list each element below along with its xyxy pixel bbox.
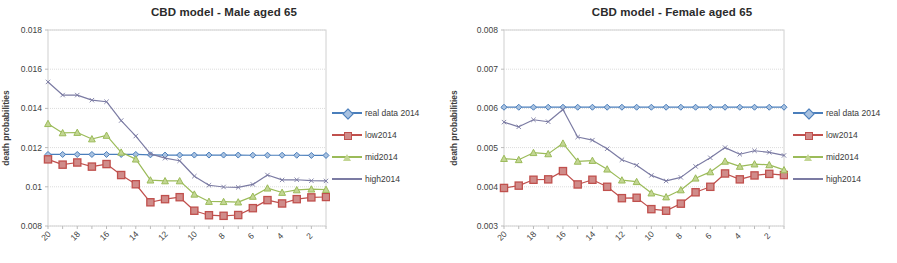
legend-swatch-triangle-icon: [332, 152, 362, 162]
y-axis-tick-label: 0.006: [477, 103, 499, 113]
legend-item-high2014[interactable]: high2014: [793, 168, 880, 190]
y-axis-tick-label: 0.008: [477, 25, 499, 35]
legend-label: low2014: [826, 130, 858, 140]
legend-swatch-square-icon: [332, 130, 362, 140]
data-point: [692, 189, 699, 196]
x-axis-tick-label: 12: [613, 229, 627, 243]
legend-swatch-line-icon: [793, 174, 823, 184]
data-point: [751, 172, 758, 179]
x-axis-tick-label: 4: [732, 230, 743, 241]
y-axis-title: death probabilities: [1, 90, 11, 166]
data-point: [677, 200, 684, 207]
legend-label: high2014: [365, 174, 400, 184]
data-point: [766, 170, 773, 177]
chart-canvas-female: 0.0030.0040.0050.0060.0070.008death prob…: [448, 22, 788, 263]
y-axis-tick-label: 0.007: [477, 64, 499, 74]
legend-item-mid2014[interactable]: mid2014: [793, 146, 880, 168]
data-point: [220, 212, 227, 219]
x-axis-tick-label: 10: [642, 229, 656, 243]
data-point: [648, 206, 655, 213]
y-axis-tick-label: 0.005: [477, 143, 499, 153]
y-axis-tick-label: 0.018: [21, 25, 43, 35]
chart-panel-female: CBD model - Female aged 65 0.0030.0040.0…: [448, 0, 896, 263]
chart-title-female: CBD model - Female aged 65: [448, 6, 896, 18]
legend-label: real data 2014: [365, 108, 419, 118]
x-axis-tick-label: 16: [98, 229, 112, 243]
data-point: [205, 212, 212, 219]
data-point: [88, 163, 95, 170]
data-point: [176, 194, 183, 201]
data-point: [589, 176, 596, 183]
y-axis-tick-label: 0.014: [21, 103, 43, 113]
data-point: [721, 170, 728, 177]
plot-area: [504, 30, 784, 226]
data-point: [249, 205, 256, 212]
legend-label: real data 2014: [826, 108, 880, 118]
data-point: [559, 168, 566, 175]
legend-item-mid2014[interactable]: mid2014: [332, 146, 419, 168]
legend-item-real-data-2014[interactable]: real data 2014: [332, 102, 419, 124]
y-axis-title: death probabilities: [449, 90, 459, 166]
x-axis-tick-label: 14: [583, 229, 597, 243]
legend-swatch-triangle-icon: [793, 152, 823, 162]
data-point: [322, 193, 329, 200]
data-point: [515, 182, 522, 189]
data-point: [574, 181, 581, 188]
x-axis-tick-label: 10: [185, 229, 199, 243]
x-axis-tick-label: 16: [554, 229, 568, 243]
x-axis-tick-label: 12: [156, 229, 170, 243]
legend-swatch-line-icon: [332, 174, 362, 184]
legend-item-real-data-2014[interactable]: real data 2014: [793, 102, 880, 124]
legend-item-low2014[interactable]: low2014: [332, 124, 419, 146]
y-axis-tick-label: 0.01: [25, 182, 42, 192]
x-axis-tick-label: 14: [127, 229, 141, 243]
data-point: [74, 159, 81, 166]
legend-label: low2014: [365, 130, 397, 140]
x-axis-tick-label: 8: [674, 230, 685, 241]
data-point: [147, 199, 154, 206]
data-point: [279, 200, 286, 207]
data-point: [633, 194, 640, 201]
data-point: [293, 196, 300, 203]
data-point: [604, 183, 611, 190]
x-axis-tick-label: 4: [275, 230, 286, 241]
chart-canvas-male: 0.0080.010.0120.0140.0160.018death proba…: [0, 22, 330, 263]
data-point: [707, 183, 714, 190]
legend-swatch-diamond-icon: [793, 108, 823, 118]
data-point: [103, 160, 110, 167]
data-point: [618, 195, 625, 202]
y-axis-tick-label: 0.004: [477, 182, 499, 192]
data-point: [736, 176, 743, 183]
data-point: [132, 181, 139, 188]
data-point: [118, 171, 125, 178]
chart-legend-male: real data 2014low2014mid2014high2014: [332, 102, 419, 190]
data-point: [59, 161, 66, 168]
y-axis-tick-label: 0.012: [21, 143, 43, 153]
y-axis-tick-label: 0.008: [21, 221, 43, 231]
x-axis-tick-label: 18: [68, 229, 82, 243]
chart-panel-male: CBD model - Male aged 65 0.0080.010.0120…: [0, 0, 448, 263]
x-axis-tick-label: 8: [216, 230, 227, 241]
data-point: [545, 176, 552, 183]
legend-label: mid2014: [826, 152, 859, 162]
data-point: [500, 184, 507, 191]
data-point: [530, 176, 537, 183]
x-axis-tick-label: 2: [762, 230, 773, 241]
y-axis-tick-label: 0.016: [21, 64, 43, 74]
legend-swatch-diamond-icon: [332, 108, 362, 118]
x-axis-tick-label: 18: [524, 229, 538, 243]
data-point: [663, 207, 670, 214]
data-point: [44, 156, 51, 163]
data-point: [235, 211, 242, 218]
chart-legend-female: real data 2014low2014mid2014high2014: [793, 102, 880, 190]
figure-container: CBD model - Male aged 65 0.0080.010.0120…: [0, 0, 897, 263]
legend-item-high2014[interactable]: high2014: [332, 168, 419, 190]
data-point: [191, 207, 198, 214]
x-axis-tick-label: 6: [703, 230, 714, 241]
data-point: [308, 194, 315, 201]
legend-item-low2014[interactable]: low2014: [793, 124, 880, 146]
x-axis-tick-label: 2: [304, 230, 315, 241]
data-point: [161, 196, 168, 203]
plot-area: [48, 30, 326, 226]
legend-label: high2014: [826, 174, 861, 184]
